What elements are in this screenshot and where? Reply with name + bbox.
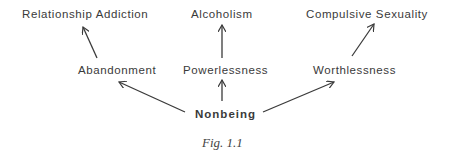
node-relationship-addiction: Relationship Addiction (22, 8, 148, 20)
arrow-nonbeing-to-worthlessness (263, 82, 334, 112)
arrow-abandonment-to-relationship-addiction (83, 27, 97, 58)
figure-caption: Fig. 1.1 (202, 135, 243, 151)
node-alcoholism: Alcoholism (191, 8, 253, 20)
node-powerlessness: Powerlessness (183, 64, 268, 76)
node-abandonment: Abandonment (78, 64, 156, 76)
node-worthlessness: Worthlessness (313, 64, 396, 76)
arrow-worthlessness-to-compulsive-sexuality (352, 24, 374, 56)
node-nonbeing: Nonbeing (195, 108, 256, 120)
arrow-nonbeing-to-abandonment (119, 82, 185, 112)
node-compulsive-sexuality: Compulsive Sexuality (306, 8, 428, 20)
diagram-canvas: Relationship Addiction Alcoholism Compul… (0, 0, 449, 159)
